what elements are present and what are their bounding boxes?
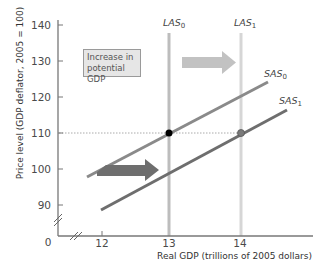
equilibrium-point-0 bbox=[166, 130, 173, 137]
y-axis-title: Price level (GDP deflator, 2005 = 100) bbox=[15, 7, 25, 180]
annotation-line-1: Increase in bbox=[87, 52, 140, 63]
y-tick-140: 140 bbox=[31, 19, 51, 31]
y-tick-130: 130 bbox=[31, 55, 51, 67]
las-shift-arrow bbox=[182, 51, 236, 74]
x-tick-13: 13 bbox=[162, 237, 175, 249]
chart-canvas: Price level (GDP deflator, 2005 = 100) bbox=[0, 0, 321, 270]
las1-label: LAS1 bbox=[234, 17, 256, 30]
origin-label: 0 bbox=[45, 236, 52, 248]
y-tick-120: 120 bbox=[31, 91, 51, 103]
y-tick-110: 110 bbox=[31, 127, 51, 139]
equilibrium-point-1 bbox=[238, 130, 245, 137]
sas0-label: SAS0 bbox=[264, 68, 287, 81]
sas-shift-arrow bbox=[97, 159, 159, 181]
x-axis-title: Real GDP (trillions of 2005 dollars) bbox=[157, 251, 312, 261]
increase-in-potential-gdp-annotation: Increase in potential GDP bbox=[83, 49, 141, 77]
x-tick-12: 12 bbox=[95, 237, 108, 249]
y-tick-100: 100 bbox=[31, 163, 51, 175]
sas1-curve bbox=[101, 110, 287, 210]
y-tick-90: 90 bbox=[38, 199, 51, 211]
aggregate-supply-chart: Price level (GDP deflator, 2005 = 100) bbox=[0, 0, 321, 270]
las0-label: LAS0 bbox=[163, 17, 185, 30]
x-tick-14: 14 bbox=[233, 237, 247, 249]
sas1-label: SAS1 bbox=[279, 95, 302, 108]
annotation-line-2: potential GDP bbox=[87, 63, 140, 85]
